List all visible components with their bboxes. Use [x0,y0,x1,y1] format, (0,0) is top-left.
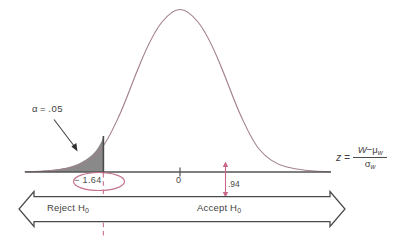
z-denominator: σw [363,158,378,170]
origin-tick-label: 0 [176,176,181,185]
z-equals-sign: = [344,153,350,163]
alpha-leader-arrow [54,120,78,152]
test-statistic-label: .94 [228,180,240,189]
alpha-annotation: α=.05 [32,104,63,114]
z-symbol: z [336,152,341,163]
z-fraction: W−μw σw [353,145,387,170]
alpha-equals-sign: = [38,103,48,114]
z-numerator: W−μw [356,145,385,157]
variable-W: W [358,144,367,155]
accept-region-label: Accept H0 [197,203,241,214]
reject-region-label: Reject H0 [47,203,89,214]
z-score-formula: z = W−μw σw [336,145,387,170]
normal-distribution-hypothesis-test-figure: α=.05 − 1.64 0 .94 z = W−μw σw Reject H0… [0,0,412,239]
critical-value-label: − 1.64 [74,176,102,185]
rejection-region-shading [25,136,103,172]
alpha-value: .05 [48,103,63,114]
reject-region-subscript: 0 [85,207,89,214]
normal-curve [25,10,330,172]
reject-region-text: Reject H [47,202,85,213]
accept-region-text: Accept H [197,202,237,213]
accept-region-subscript: 0 [237,207,241,214]
sigma-subscript: w [371,163,376,170]
mu-subscript: w [378,149,383,156]
